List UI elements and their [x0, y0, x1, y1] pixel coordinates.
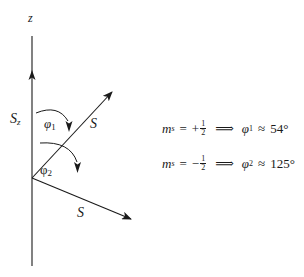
eq2-sign: − [192, 157, 199, 170]
z-axis-label: z [28, 12, 33, 24]
spin-up-vector-label: S [90, 117, 97, 131]
eq2-lhs-sub: s [171, 160, 174, 168]
eq2-lhs-var: m [162, 157, 171, 170]
eq2-value: 125° [270, 157, 295, 170]
sz-label-sub: z [17, 117, 21, 127]
eq1-lhs-sub: s [171, 125, 174, 133]
eq2-frac-den: 2 [200, 164, 206, 172]
eq1-value: 54° [270, 122, 288, 135]
eq1-equals: = [180, 122, 187, 135]
eq1-frac-den: 2 [200, 129, 206, 137]
eq2-approx: ≈ [258, 157, 265, 170]
eq1-rhs-var: φ [242, 122, 249, 135]
equation-spin-down: ms = − 1 2 ⟹ φ2 ≈ 125° [162, 155, 295, 172]
eq2-rhs-var: φ [242, 157, 249, 170]
phi2-label-main: φ [40, 162, 48, 177]
eq2-implies-icon: ⟹ [215, 157, 234, 170]
eq1-lhs-var: m [162, 122, 171, 135]
eq1-approx: ≈ [258, 122, 265, 135]
phi2-label-sub: 2 [48, 168, 53, 178]
eq2-equals: = [180, 157, 187, 170]
phi1-label-sub: 1 [51, 122, 56, 132]
spin-down-vector-label: S [77, 206, 84, 220]
eq2-rhs-sub: 2 [249, 160, 253, 168]
eq1-rhs-sub: 1 [249, 125, 253, 133]
phi2-arc-arrow-icon [74, 162, 81, 173]
sz-label-main: S [10, 111, 17, 126]
z-axis [29, 36, 36, 266]
phi2-label: φ2 [40, 163, 52, 178]
phi1-arc-arrow-icon [66, 121, 73, 132]
equation-spin-up: ms = + 1 2 ⟹ φ1 ≈ 54° [162, 120, 288, 137]
eq1-fraction: 1 2 [200, 120, 206, 137]
eq1-implies-icon: ⟹ [215, 122, 234, 135]
eq1-sign: + [192, 122, 199, 135]
spin-vector-diagram [0, 0, 304, 277]
eq2-fraction: 1 2 [200, 155, 206, 172]
phi1-label: φ1 [44, 117, 56, 132]
sz-label: Sz [10, 112, 21, 127]
